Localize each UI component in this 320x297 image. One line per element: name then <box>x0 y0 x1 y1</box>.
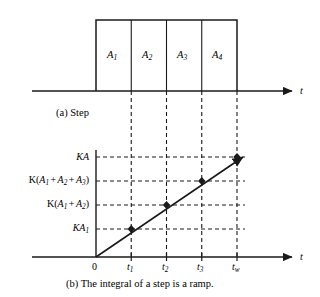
area-label-a1: A1 <box>107 50 117 62</box>
panel-b-caption: (b) The integral of a step is a ramp. <box>66 279 214 290</box>
ramp-data-markers <box>128 153 241 233</box>
panel-a-axis-label: t <box>300 86 303 96</box>
x-tick-label-t2: t2 <box>162 262 168 274</box>
panel-a-caption: (a) Step <box>56 108 89 119</box>
area-label-a2: A2 <box>142 50 152 62</box>
area-label-a3: A3 <box>177 50 187 62</box>
area-label-a4: A4 <box>212 50 222 62</box>
x-tick-label-t3: t3 <box>197 262 203 274</box>
connector-gridlines <box>131 91 237 257</box>
y-tick-label-ka1: KA1 <box>0 223 89 235</box>
y-tick-label-ka: KA <box>0 152 89 162</box>
figure-graphics <box>0 0 320 297</box>
y-tick-label-k-a1-a2: K(A1+A2) <box>0 199 89 211</box>
x-tick-label-zero: 0 <box>92 262 97 272</box>
y-tick-label-k-a1-a2-a3: K(A1+A2+A3) <box>0 175 89 187</box>
x-tick-label-t1: t1 <box>127 262 133 274</box>
ramp-horizontal-gridlines <box>96 157 245 229</box>
figure-container: A1 A2 A3 A4 t (a) Step KA K(A1+A2+A3) K(… <box>0 0 320 297</box>
panel-b-axis-label: t <box>300 252 303 262</box>
panel-a-step-graphics <box>32 20 292 91</box>
x-tick-label-tw: tw <box>232 262 240 274</box>
ramp-line <box>96 157 243 257</box>
